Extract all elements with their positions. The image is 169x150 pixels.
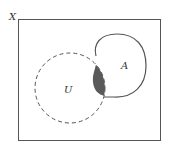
set-a-label: A xyxy=(120,60,128,71)
venn-diagram: X A U xyxy=(0,0,169,150)
universe-box xyxy=(19,20,161,141)
universe-label: X xyxy=(8,11,17,22)
set-u-label: U xyxy=(64,84,73,95)
